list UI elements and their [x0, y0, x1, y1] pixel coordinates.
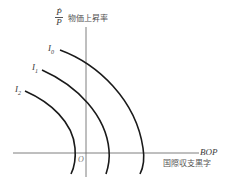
y-axis-label: 物価上昇率 [68, 15, 108, 23]
curve-label-i2-subscript: 2 [18, 90, 21, 96]
origin-label: O [78, 156, 84, 164]
x-axis-label: 国際収支黒字 [163, 160, 211, 168]
curve-i0 [60, 50, 144, 174]
curve-label-i0: I0 [48, 44, 54, 55]
y-axis-symbol-denominator: P [54, 18, 64, 27]
diagram-canvas [0, 0, 232, 184]
curve-i2 [25, 91, 75, 174]
y-axis-symbol-numerator: Ṗ [54, 8, 64, 17]
curve-label-i1: I1 [32, 63, 38, 74]
x-axis-symbol: BOP [200, 148, 218, 157]
curve-label-i2: I2 [15, 85, 21, 96]
y-axis-symbol: Ṗ P [54, 8, 64, 27]
curve-label-i0-subscript: 0 [51, 49, 54, 55]
curve-label-i1-subscript: 1 [35, 68, 38, 74]
